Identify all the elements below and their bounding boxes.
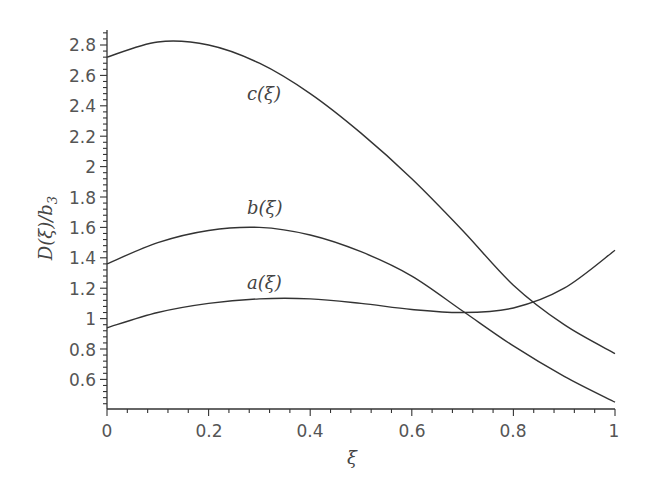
x-tick-label: 0.6 xyxy=(398,421,425,441)
x-axis-title: ξ xyxy=(347,447,358,468)
y-tick-label: 2 xyxy=(85,157,96,177)
y-tick-label: 1.6 xyxy=(69,218,96,238)
y-tick-label: 0.8 xyxy=(69,340,96,360)
y-tick-label: 2.2 xyxy=(69,127,96,147)
y-tick-label: 2.8 xyxy=(69,35,96,55)
x-ticks xyxy=(107,409,615,416)
y-axis-title-main: D(ξ)/b xyxy=(35,204,56,261)
curve-b xyxy=(107,227,615,402)
x-tick-label: 0.8 xyxy=(499,421,526,441)
y-tick-label: 0.6 xyxy=(69,370,96,390)
x-tick-labels: 0 0.2 0.4 0.6 0.8 1 xyxy=(102,421,620,441)
curve-label-c: c(ξ) xyxy=(247,83,281,104)
y-axis-title-subscript: 3 xyxy=(45,196,60,204)
x-tick-label: 0.2 xyxy=(195,421,222,441)
x-tick-label: 0.4 xyxy=(296,421,323,441)
y-tick-labels: 0.6 0.8 1 1.2 1.4 1.6 1.8 2 2.2 2.4 2.6 … xyxy=(69,35,96,390)
line-chart: 0.6 0.8 1 1.2 1.4 1.6 1.8 2 2.2 2.4 2.6 … xyxy=(0,0,648,485)
x-tick-label: 1 xyxy=(609,421,620,441)
y-tick-label: 1 xyxy=(85,309,96,329)
curve-label-b: b(ξ) xyxy=(247,197,282,218)
y-tick-label: 1.8 xyxy=(69,188,96,208)
y-axis-title: D(ξ)/b3 xyxy=(35,196,60,261)
y-tick-label: 1.2 xyxy=(69,279,96,299)
y-tick-label: 2.4 xyxy=(69,96,96,116)
axes xyxy=(107,30,615,409)
curves xyxy=(107,41,615,402)
curve-label-a: a(ξ) xyxy=(247,272,282,293)
y-ticks xyxy=(100,33,107,404)
y-tick-label: 1.4 xyxy=(69,248,96,268)
curve-a xyxy=(107,250,615,328)
x-tick-label: 0 xyxy=(102,421,113,441)
y-tick-label: 2.6 xyxy=(69,66,96,86)
